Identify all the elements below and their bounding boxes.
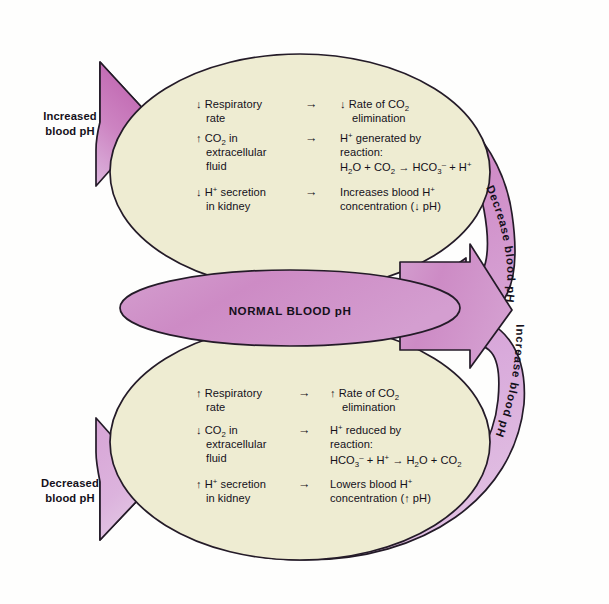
bottom-row1-effect-line2: elimination bbox=[342, 401, 396, 413]
increased-blood-ph-label-line1: Increased bbox=[43, 110, 97, 122]
top-row2-effect-post: generated by bbox=[353, 132, 422, 144]
diagram-canvas: NORMAL BLOOD pH Increased blood pH Decre… bbox=[0, 0, 609, 604]
top-row3-effect-pre: Increases blood H bbox=[340, 186, 430, 198]
bottom-row3-cause-line1: ↑ H+ secretion bbox=[196, 477, 266, 490]
decreased-blood-ph-label-line2: blood pH bbox=[45, 492, 95, 504]
bottom-row2-connector: → bbox=[298, 423, 311, 437]
ph-homeostasis-diagram: NORMAL BLOOD pH Increased blood pH Decre… bbox=[0, 0, 609, 604]
beq-arrow: → H bbox=[389, 454, 414, 466]
bottom-row3-cause-pre: ↑ H bbox=[196, 478, 213, 490]
top-row2-effect-line1: H+ generated by bbox=[340, 131, 422, 144]
top-row2-connector: → bbox=[305, 131, 318, 145]
bottom-row2-cause-post: in bbox=[226, 424, 238, 436]
top-row1-effect-line2: elimination bbox=[352, 112, 406, 124]
bottom-row3-effect-line1: Lowers blood H+ bbox=[330, 477, 413, 490]
bottom-row3-cause-line2: in kidney bbox=[206, 492, 251, 504]
bottom-row1-effect-pre: ↑ Rate of CO bbox=[330, 387, 395, 399]
bottom-row3-connector: → bbox=[298, 477, 311, 491]
bottom-row2-effect-post: reduced by bbox=[343, 424, 402, 436]
top-row3-cause-line1: ↓ H+ secretion bbox=[196, 185, 266, 198]
top-row2-cause-pre: ↑ CO bbox=[196, 132, 222, 144]
beq-hco: HCO bbox=[330, 454, 355, 466]
top-row3-effect-line1: Increases blood H+ bbox=[340, 185, 435, 198]
eq-sup: + bbox=[467, 160, 472, 169]
bottom-row2-effect-line2: reaction: bbox=[330, 438, 373, 450]
top-row2-cause-line3: fluid bbox=[206, 160, 227, 172]
top-row2-cause-post: in bbox=[226, 132, 238, 144]
eq-h: H bbox=[340, 161, 348, 173]
eq-o: O + CO bbox=[352, 161, 391, 173]
increased-blood-ph-label-line2: blood pH bbox=[45, 125, 95, 137]
bottom-row2-cause-line3: fluid bbox=[206, 452, 227, 464]
bottom-row1-cause-line2: rate bbox=[206, 401, 225, 413]
top-row1-cause-line2: rate bbox=[206, 112, 225, 124]
top-row3-connector: → bbox=[305, 185, 318, 199]
top-row1-effect-pre: ↓ Rate of CO bbox=[340, 98, 405, 110]
top-row2-effect-pre: H bbox=[340, 132, 348, 144]
beq-oco: O + CO bbox=[419, 454, 458, 466]
top-row2-cause-line2: extracellular bbox=[206, 146, 267, 158]
beq-plusH: + H bbox=[364, 454, 385, 466]
bottom-row2-cause-line2: extracellular bbox=[206, 438, 267, 450]
normal-blood-ph-label: NORMAL BLOOD pH bbox=[229, 304, 352, 317]
lower-pathway-body bbox=[110, 324, 490, 560]
beq-2b: 2 bbox=[457, 460, 461, 469]
top-row3-cause-post: secretion bbox=[217, 186, 266, 198]
top-row1-connector: → bbox=[305, 97, 318, 111]
bottom-row3-effect-pre: Lowers blood H bbox=[330, 478, 408, 490]
bottom-row1-cause-line1: ↑ Respiratory bbox=[196, 387, 262, 399]
top-row3-cause-line2: in kidney bbox=[206, 200, 251, 212]
bottom-row2-cause-pre: ↓ CO bbox=[196, 424, 222, 436]
decreased-blood-ph-label-line1: Decreased bbox=[41, 477, 99, 489]
bottom-row3-effect-sup: + bbox=[408, 477, 413, 486]
decreased-blood-ph-label-group: Decreased blood pH bbox=[41, 477, 99, 504]
bottom-row1-connector: → bbox=[298, 386, 311, 400]
top-row3-effect-sup: + bbox=[430, 185, 435, 194]
eq-arrow: → HCO bbox=[395, 161, 438, 173]
top-row3-effect-line2: concentration (↓ pH) bbox=[340, 200, 441, 212]
top-row1-cause-line1: ↓ Respiratory bbox=[196, 98, 262, 110]
increased-blood-ph-label-group: Increased blood pH bbox=[43, 110, 97, 137]
top-row2-effect-line2: reaction: bbox=[340, 146, 383, 158]
lower-body-ellipse bbox=[110, 324, 490, 560]
bottom-row3-cause-post: secretion bbox=[217, 478, 266, 490]
bottom-row2-effect-pre: H bbox=[330, 424, 338, 436]
eq-plus: + H bbox=[446, 161, 467, 173]
top-row3-cause-pre: ↓ H bbox=[196, 186, 213, 198]
bottom-row3-effect-line2: concentration (↑ pH) bbox=[330, 492, 431, 504]
